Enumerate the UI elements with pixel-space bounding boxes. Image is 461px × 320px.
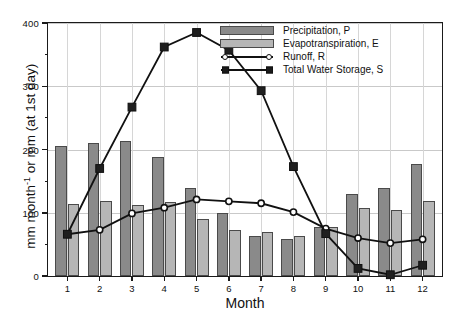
x-axis-tick — [357, 276, 359, 281]
x-axis-tick-label: 10 — [353, 283, 364, 294]
marker-open-circle-month-4 — [161, 205, 167, 211]
marker-open-circle-month-10 — [355, 235, 361, 241]
legend-square-marker-icon — [222, 66, 229, 73]
x-axis-tick-label: 2 — [97, 283, 102, 294]
x-axis-tick — [293, 276, 295, 281]
legend-circle-marker-icon — [266, 54, 272, 60]
x-axis-tick-label: 8 — [291, 283, 296, 294]
x-axis-tick — [196, 276, 198, 281]
marker-filled-square-month-9 — [322, 230, 330, 238]
legend-key-icon — [218, 38, 276, 49]
marker-filled-square-month-2 — [96, 165, 104, 173]
legend-label: Runoff, R — [283, 51, 325, 62]
x-axis-tick-label: 4 — [162, 283, 167, 294]
legend-label: Total Water Storage, S — [283, 64, 383, 75]
marker-filled-square-month-5 — [193, 29, 201, 37]
legend-label: Evapotranspiration, E — [283, 38, 379, 49]
legend-item-2: Runoff, R — [218, 50, 440, 63]
x-axis-tick — [67, 276, 69, 281]
legend-item-1: Evapotranspiration, E — [218, 37, 440, 50]
x-axis-tick — [228, 276, 230, 281]
legend-item-0: Precipitation, P — [218, 24, 440, 37]
marker-open-circle-month-8 — [290, 209, 296, 215]
marker-filled-square-month-3 — [128, 103, 136, 111]
marker-filled-square-month-1 — [63, 230, 71, 238]
x-axis-title: Month — [47, 295, 443, 311]
marker-filled-square-month-11 — [386, 271, 394, 279]
legend-square-marker-icon — [266, 66, 273, 73]
x-axis-tick — [422, 276, 424, 281]
marker-open-circle-month-6 — [226, 198, 232, 204]
marker-open-circle-month-7 — [258, 200, 264, 206]
marker-filled-square-month-10 — [354, 265, 362, 273]
legend-item-3: Total Water Storage, S — [218, 63, 440, 76]
water-balance-chart: 0100200300400123456789101112 Month mm mo… — [0, 0, 461, 320]
legend-key-icon — [218, 64, 276, 75]
legend-key-icon — [218, 51, 276, 62]
marker-open-circle-month-11 — [387, 240, 393, 246]
line-open-circle — [67, 199, 422, 243]
x-axis-tick — [99, 276, 101, 281]
x-axis-tick-label: 11 — [385, 283, 395, 294]
x-axis-tick-label: 5 — [194, 283, 199, 294]
legend-label: Precipitation, P — [283, 25, 350, 36]
y-axis-title: mm month-1 or mm (at 1st day) — [22, 26, 39, 286]
marker-filled-square-month-12 — [419, 261, 427, 269]
legend-circle-marker-icon — [222, 54, 228, 60]
marker-filled-square-month-8 — [290, 163, 298, 171]
x-axis-tick-label: 6 — [226, 283, 231, 294]
x-axis-tick-label: 3 — [129, 283, 134, 294]
marker-open-circle-month-12 — [420, 236, 426, 242]
chart-legend: Precipitation, PEvapotranspiration, ERun… — [218, 23, 440, 78]
legend-key-icon — [218, 25, 276, 36]
x-axis-tick-label: 12 — [417, 283, 428, 294]
marker-filled-square-month-7 — [257, 87, 265, 95]
marker-open-circle-month-3 — [129, 210, 135, 216]
marker-open-circle-month-5 — [193, 196, 199, 202]
x-axis-tick-label: 7 — [258, 283, 263, 294]
marker-open-circle-month-2 — [97, 227, 103, 233]
x-axis-tick-label: 9 — [323, 283, 328, 294]
x-axis-tick — [131, 276, 133, 281]
legend-swatch-icon — [220, 26, 274, 35]
x-axis-tick — [325, 276, 327, 281]
x-axis-tick — [260, 276, 262, 281]
marker-filled-square-month-4 — [160, 43, 168, 51]
x-axis-tick-label: 1 — [65, 283, 70, 294]
x-axis-tick — [164, 276, 166, 281]
legend-swatch-icon — [220, 39, 274, 48]
